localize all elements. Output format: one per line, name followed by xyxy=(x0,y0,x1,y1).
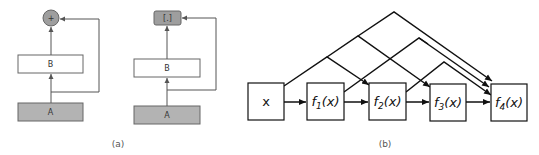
diagram-canvas: A B + A B [.] (a) xyxy=(0,0,539,155)
skip-arc-x-to-f2 xyxy=(284,57,369,86)
box-a-residual-label: A xyxy=(48,108,54,117)
node-f1-label: f1(x) xyxy=(311,94,339,111)
skip-arc-x-to-f4 xyxy=(358,12,492,81)
node-f3-label: f3(x) xyxy=(434,95,462,112)
residual-block: A B + xyxy=(18,10,99,121)
concat-block: A B [.] xyxy=(134,11,216,124)
caption-a: (a) xyxy=(112,139,125,149)
concat-merge-symbol: [.] xyxy=(163,14,172,23)
node-f4-label: f4(x) xyxy=(495,95,523,112)
plus-merge-symbol: + xyxy=(48,14,55,23)
box-a-concat-label: A xyxy=(164,111,170,120)
node-f2-label: f2(x) xyxy=(373,94,401,111)
skip-arc-x-to-f3 xyxy=(327,36,430,87)
skip-arc-f1-to-f3-tail xyxy=(419,38,489,87)
skip-connection-concat xyxy=(167,18,216,90)
box-b-concat-label: B xyxy=(164,64,170,73)
box-b-residual-label: B xyxy=(48,60,54,69)
node-x-label: x xyxy=(262,94,270,109)
dense-block: x f1(x) f2(x) f3(x) f4(x) xyxy=(248,12,527,121)
caption-b: (b) xyxy=(379,139,392,149)
